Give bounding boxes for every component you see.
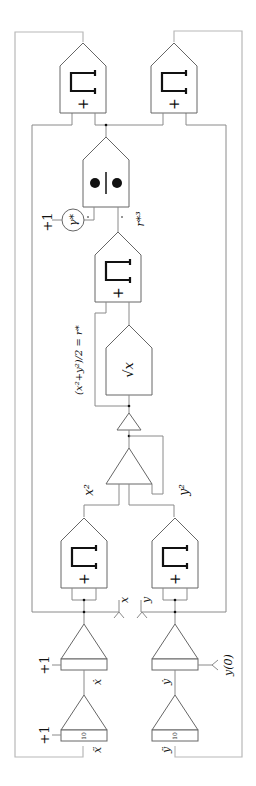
x-label: x [118, 596, 131, 603]
analog-circuit-diagram: + + γ* +1 r*³ + [0, 0, 256, 786]
mult-plus-sign: + [76, 573, 92, 585]
junction-dot [83, 611, 86, 614]
y-initial-arrow-icon [212, 660, 218, 670]
coef-gamma: γ* [62, 209, 84, 231]
sqrt-label: √x [121, 362, 136, 378]
integrator-x-dot: 10 [61, 695, 107, 741]
y-squared-input-wire [163, 588, 187, 600]
mult-plus-sign: + [110, 287, 126, 299]
mult-plus-sign: + [75, 98, 91, 110]
divider [83, 137, 129, 207]
divider-output-wire [95, 113, 163, 125]
integrator-y-dot: 10 [152, 695, 198, 741]
mult-r-cubed: + [95, 232, 141, 302]
plus-one-label: +1 [40, 212, 55, 231]
x-dot-label: ẋ [91, 678, 104, 685]
x-ddot-label: ẍ [91, 746, 104, 753]
mult-x-squared: + [61, 518, 107, 588]
junction-dot [105, 124, 108, 127]
mult-top-right: + [151, 43, 197, 113]
y-output-arrow-icon [137, 612, 147, 618]
x-squared-input-wire [72, 588, 96, 600]
y-ddot-label: ÿ [160, 746, 173, 754]
input-dot [121, 216, 123, 218]
junction-dot [83, 599, 86, 602]
y-squared-label: y² [177, 484, 191, 497]
y-label: y [140, 596, 153, 604]
gamma-label: γ* [67, 213, 80, 226]
mult-top-left: + [60, 43, 106, 113]
mult-plus-sign: + [167, 573, 183, 585]
plus-one-label: +1 [37, 655, 52, 674]
plus-one-label: +1 [37, 725, 52, 744]
gain-10-label: 10 [171, 732, 178, 740]
mult-plus-sign: + [166, 98, 182, 110]
integrator-y [152, 624, 198, 670]
integrator-x [61, 624, 107, 670]
input-dot [87, 216, 89, 218]
sqrt-function: √x [106, 325, 152, 395]
gain-10-label: 10 [80, 732, 87, 740]
junction-dot [128, 405, 131, 408]
mult-y-squared: + [152, 518, 198, 588]
junction-dot [174, 611, 177, 614]
junction-dot [174, 599, 177, 602]
svg-text:(x²+y²)/2 = r*: (x²+y²)/2 = r* [73, 325, 84, 395]
inverter [117, 413, 141, 430]
y-initial-label: y(0) [222, 654, 235, 677]
y-dot-label: ẏ [160, 678, 173, 686]
x-output-arrow-icon [114, 612, 124, 618]
summer [106, 448, 152, 484]
r-cubed-label: r*³ [134, 211, 147, 226]
x-squared-label: x² [82, 484, 96, 496]
divider-input-gamma-wire [84, 207, 94, 220]
r-star-equation: (x²+y²)/2 = r* [73, 325, 84, 395]
